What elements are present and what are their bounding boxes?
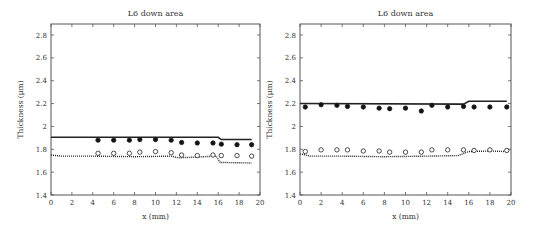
filled-marker [419, 109, 423, 113]
filled-marker [461, 104, 465, 108]
filled-marker [319, 103, 323, 107]
open-marker [419, 150, 423, 154]
open-marker [403, 150, 407, 154]
filled-marker [387, 107, 391, 111]
filled-marker [488, 105, 492, 109]
x-tick-label: 16 [214, 199, 223, 207]
chart-title: L6 down area [378, 9, 434, 18]
open-marker [505, 148, 509, 152]
filled-marker [211, 141, 215, 145]
open-marker [219, 153, 223, 157]
y-tick-label: 2.6 [36, 54, 48, 62]
x-tick-label: 8 [132, 199, 136, 207]
x-tick-label: 18 [485, 199, 494, 207]
open-marker [235, 153, 239, 157]
upper-solid-line [300, 101, 507, 104]
x-tick-label: 8 [382, 199, 386, 207]
x-tick-label: 18 [235, 199, 244, 207]
filled-marker [446, 105, 450, 109]
plot-frame [51, 24, 260, 195]
x-tick-label: 14 [193, 199, 202, 207]
x-tick-label: 0 [298, 199, 302, 207]
x-tick-label: 2 [70, 199, 74, 207]
filled-marker [127, 138, 131, 142]
open-marker [361, 149, 365, 153]
x-tick-label: 16 [464, 199, 473, 207]
open-marker [319, 148, 323, 152]
x-tick-label: 6 [111, 199, 116, 207]
y-tick-label: 2.6 [285, 54, 297, 62]
x-tick-label: 12 [172, 199, 181, 207]
open-marker [387, 150, 391, 154]
filled-marker [249, 143, 253, 147]
filled-marker [96, 138, 100, 142]
open-marker [96, 151, 100, 155]
y-tick-label: 1.8 [36, 146, 47, 154]
y-tick-label: 2.4 [36, 77, 48, 85]
y-tick-label: 1.6 [36, 169, 48, 177]
x-tick-label: 20 [507, 199, 516, 207]
x-axis-label: x (mm) [142, 212, 169, 221]
filled-marker [361, 105, 365, 109]
open-marker [211, 153, 215, 157]
y-tick-label: 2.8 [36, 32, 47, 40]
chart-2: L6 down area024681012141618201.41.61.822… [265, 9, 515, 221]
filled-marker [138, 137, 142, 141]
open-marker [303, 149, 307, 153]
y-axis-label: Thickness (μm) [265, 80, 274, 138]
open-marker [153, 149, 157, 153]
open-marker [335, 148, 339, 152]
open-marker [195, 153, 199, 157]
filled-marker [179, 140, 183, 144]
filled-marker [505, 105, 509, 109]
filled-marker [169, 138, 173, 142]
filled-marker [112, 138, 116, 142]
x-tick-label: 2 [319, 199, 323, 207]
filled-marker [403, 106, 407, 110]
open-marker [112, 151, 116, 155]
y-tick-label: 2 [292, 123, 296, 131]
figure: L6 down area024681012141618201.41.61.822… [0, 0, 535, 231]
y-tick-label: 2.2 [285, 100, 296, 108]
filled-marker [195, 141, 199, 145]
y-tick-label: 1.8 [285, 146, 296, 154]
y-tick-label: 1.6 [285, 169, 297, 177]
y-tick-label: 1.4 [285, 192, 297, 200]
y-axis-label: Thickness (μm) [16, 80, 25, 138]
x-tick-label: 10 [401, 199, 410, 207]
y-tick-label: 2.2 [36, 100, 47, 108]
filled-marker [345, 104, 349, 108]
open-marker [138, 150, 142, 154]
open-marker [488, 148, 492, 152]
filled-marker [377, 106, 381, 110]
filled-marker [430, 103, 434, 107]
y-tick-label: 1.4 [36, 192, 48, 200]
y-tick-label: 2 [43, 123, 47, 131]
open-marker [446, 148, 450, 152]
open-marker [127, 151, 131, 155]
filled-marker [153, 137, 157, 141]
x-tick-label: 0 [49, 199, 53, 207]
x-tick-label: 14 [443, 199, 452, 207]
x-tick-label: 4 [91, 199, 96, 207]
y-tick-label: 2.8 [285, 32, 296, 40]
x-tick-label: 12 [422, 199, 431, 207]
filled-marker [335, 103, 339, 107]
open-marker [377, 149, 381, 153]
filled-marker [303, 105, 307, 109]
x-tick-label: 10 [151, 199, 160, 207]
open-marker [472, 148, 476, 152]
x-tick-label: 6 [361, 199, 366, 207]
filled-marker [219, 142, 223, 146]
y-tick-label: 2.4 [285, 77, 297, 85]
chart-1: L6 down area024681012141618201.41.61.822… [16, 9, 264, 221]
x-tick-label: 20 [256, 199, 265, 207]
open-marker [169, 151, 173, 155]
chart-title: L6 down area [128, 9, 184, 18]
open-marker [461, 148, 465, 152]
open-marker [430, 148, 434, 152]
open-marker [179, 153, 183, 157]
open-marker [345, 148, 349, 152]
filled-marker [472, 105, 476, 109]
x-tick-label: 4 [340, 199, 345, 207]
